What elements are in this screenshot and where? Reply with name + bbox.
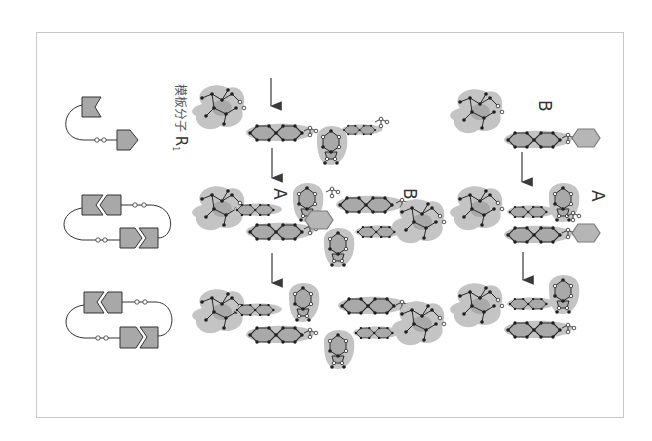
label-a-right: A [588,190,608,202]
product-molecule [192,283,446,369]
product-right [450,275,579,339]
complex-schematic [64,195,171,248]
template-subscript: 1 [171,146,180,151]
template-molecule-label: 模板分子 R1 [171,84,190,151]
template-schematic [66,97,138,150]
template-label-text: 模板分子 [173,84,187,132]
product-schematic [66,292,172,348]
diagram-canvas: A B B A [0,0,652,441]
molecule-b [450,89,600,149]
template-symbol: R [172,136,190,146]
label-b-right: B [535,100,555,112]
label-a-middle: A [270,188,290,200]
template-molecule-r1 [192,85,389,165]
label-b-middle: B [400,188,420,200]
complex-b-a-right [450,183,600,244]
